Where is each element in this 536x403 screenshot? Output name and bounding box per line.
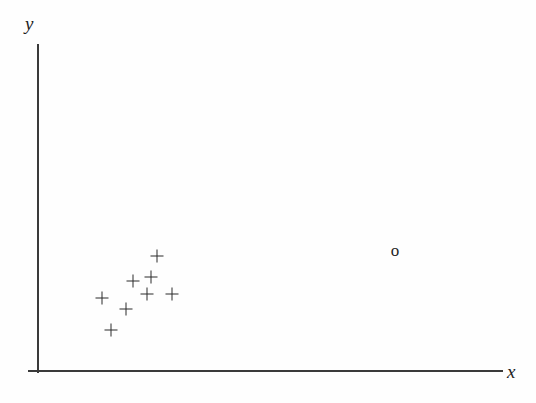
data-point-circle: o <box>391 242 400 259</box>
data-point-plus <box>120 303 133 316</box>
data-point-plus <box>127 275 140 288</box>
scatter-plot-figure: y x o <box>0 0 536 403</box>
y-axis-line <box>37 44 39 373</box>
data-point-plus <box>141 288 154 301</box>
x-axis-line <box>28 370 503 372</box>
y-axis-label: y <box>25 14 33 33</box>
data-point-plus <box>96 292 109 305</box>
data-point-plus <box>105 324 118 337</box>
data-point-plus <box>166 288 179 301</box>
data-point-plus <box>151 250 164 263</box>
x-axis-label: x <box>507 362 515 381</box>
data-point-plus <box>145 271 158 284</box>
